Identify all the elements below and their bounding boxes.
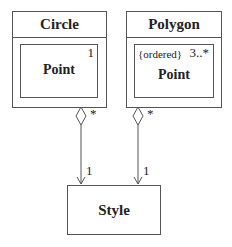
part-multiplicity: 1 bbox=[88, 45, 95, 61]
class-name: Style bbox=[68, 202, 160, 219]
part-name: Point bbox=[135, 67, 213, 83]
aggregation-diamond-icon bbox=[133, 107, 143, 125]
class-style[interactable]: Style bbox=[67, 185, 161, 235]
target-multiplicity: 1 bbox=[143, 163, 150, 179]
class-name: Polygon bbox=[127, 12, 221, 38]
class-polygon[interactable]: Polygon {ordered} 3..* Point bbox=[126, 11, 222, 108]
part-point[interactable]: {ordered} 3..* Point bbox=[134, 44, 214, 98]
target-multiplicity: 1 bbox=[86, 163, 93, 179]
aggregation-diamond-icon bbox=[76, 107, 86, 125]
source-multiplicity: * bbox=[90, 106, 97, 122]
part-point[interactable]: 1 Point bbox=[20, 44, 98, 98]
source-multiplicity: * bbox=[147, 106, 154, 122]
part-multiplicity: 3..* bbox=[190, 45, 210, 61]
class-circle[interactable]: Circle 1 Point bbox=[12, 11, 107, 108]
class-name: Circle bbox=[13, 12, 106, 38]
part-constraint: {ordered} bbox=[138, 48, 182, 60]
part-name: Point bbox=[21, 62, 97, 78]
